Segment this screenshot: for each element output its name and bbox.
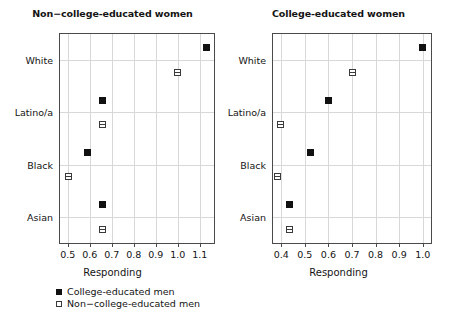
data-point [286,226,293,233]
legend-item: College-educated men [56,286,200,298]
gridline-horizontal [60,165,214,166]
gridline-horizontal [60,60,214,61]
gridline-horizontal [273,165,431,166]
data-point [307,149,314,156]
gridline-vertical [90,34,91,243]
data-point [419,44,426,51]
y-axis-category-label: Latino/a [15,107,53,118]
x-tick-mark [112,243,113,247]
gridline-vertical [68,34,69,243]
gridline-vertical [399,34,400,243]
x-tick-label: 0.9 [392,249,407,260]
data-point [203,44,210,51]
panel-title: Non−college-educated women [0,8,225,19]
gridline-vertical [178,34,179,243]
data-point [99,201,106,208]
gridline-vertical [423,34,424,243]
data-point [99,226,106,233]
data-point [84,149,91,156]
x-tick-label: 0.6 [82,249,97,260]
gridline-vertical [200,34,201,243]
gridline-vertical [376,34,377,243]
data-point [99,97,106,104]
x-axis-title: Responding [226,267,451,278]
x-tick-mark [200,243,201,247]
y-axis-category-label: White [25,55,53,66]
legend-item-label: College-educated men [67,286,175,298]
gridline-horizontal [273,60,431,61]
figure-dotplot-responding: Non−college-educated women 0.50.60.70.80… [0,0,451,319]
gridline-horizontal [60,112,214,113]
plot-area: 0.40.50.60.70.80.91.0WhiteLatino/aBlackA… [272,33,432,244]
gridline-horizontal [60,217,214,218]
x-tick-mark [399,243,400,247]
x-tick-mark [134,243,135,247]
x-tick-label: 0.9 [148,249,163,260]
x-tick-label: 0.7 [344,249,359,260]
data-point [65,173,72,180]
x-tick-mark [178,243,179,247]
gridline-vertical [352,34,353,243]
legend: College-educated menNon−college-educated… [56,286,200,310]
filled-square-icon [56,289,62,295]
open-square-icon [56,301,62,307]
data-point [349,69,356,76]
gridline-vertical [112,34,113,243]
panel-college-educated-women: College-educated women 0.40.50.60.70.80.… [226,0,451,285]
x-tick-mark [305,243,306,247]
x-tick-label: 0.7 [104,249,119,260]
x-tick-label: 0.6 [321,249,336,260]
gridline-vertical [305,34,306,243]
data-point [99,121,106,128]
gridline-horizontal [273,112,431,113]
x-tick-label: 1.0 [415,249,430,260]
legend-item: Non−college-educated men [56,298,200,310]
y-axis-category-label: Asian [240,211,266,222]
plot-area: 0.50.60.70.80.91.01.1WhiteLatino/aBlackA… [59,33,215,244]
data-point [286,201,293,208]
x-tick-mark [423,243,424,247]
data-point [174,69,181,76]
legend-item-label: Non−college-educated men [67,298,200,310]
x-tick-label: 0.8 [368,249,383,260]
x-tick-label: 1.0 [170,249,185,260]
x-tick-label: 0.5 [60,249,75,260]
x-tick-mark [68,243,69,247]
y-axis-category-label: Latino/a [228,107,266,118]
x-tick-label: 0.8 [126,249,141,260]
x-tick-mark [90,243,91,247]
x-tick-label: 0.4 [274,249,289,260]
x-tick-mark [328,243,329,247]
y-axis-category-label: Black [240,159,266,170]
x-tick-label: 1.1 [192,249,207,260]
data-point [274,173,281,180]
gridline-vertical [281,34,282,243]
data-point [325,97,332,104]
gridline-vertical [328,34,329,243]
y-axis-category-label: Asian [27,211,53,222]
y-axis-category-label: Black [27,159,53,170]
gridline-vertical [156,34,157,243]
x-tick-mark [352,243,353,247]
x-tick-mark [156,243,157,247]
data-point [277,121,284,128]
x-tick-mark [376,243,377,247]
panel-non-college-educated-women: Non−college-educated women 0.50.60.70.80… [0,0,225,285]
x-axis-title: Responding [0,267,225,278]
gridline-horizontal [273,217,431,218]
x-tick-mark [281,243,282,247]
gridline-vertical [134,34,135,243]
x-tick-label: 0.5 [297,249,312,260]
y-axis-category-label: White [238,55,266,66]
panel-title: College-educated women [226,8,451,19]
